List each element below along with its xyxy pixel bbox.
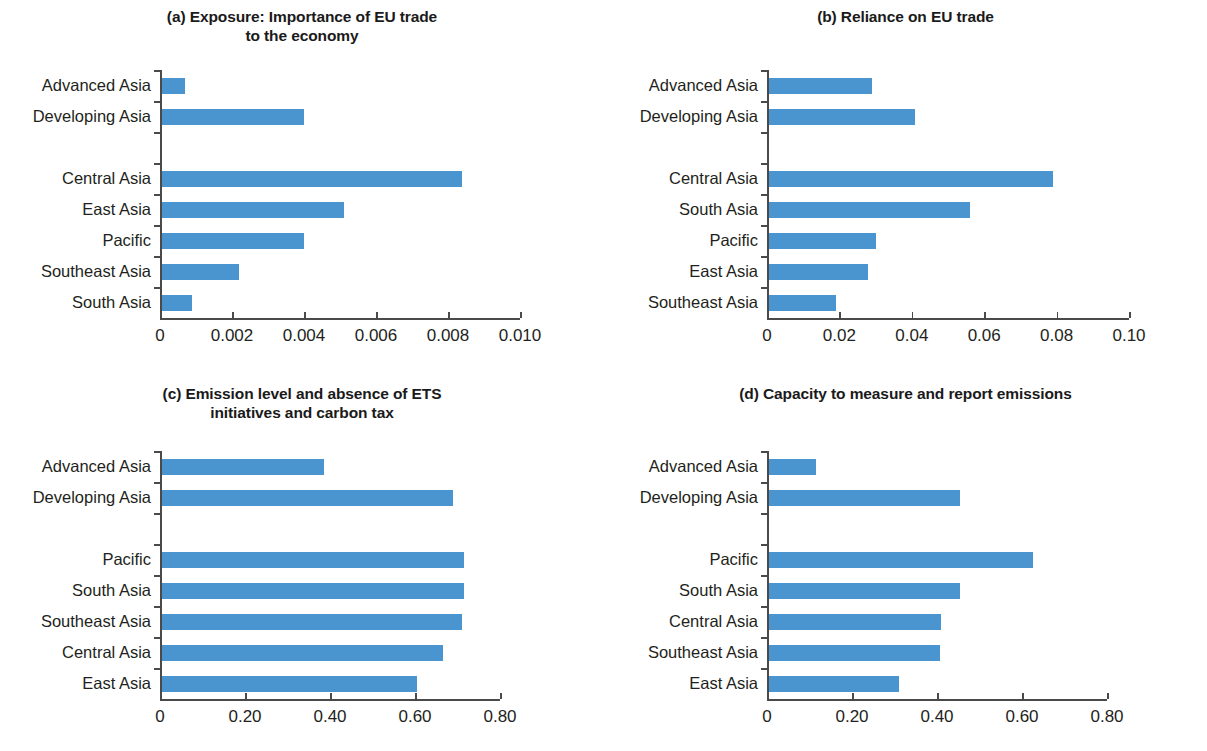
bar-row: South Asia: [604, 194, 1207, 225]
bar: [160, 109, 304, 125]
x-axis: 00.200.400.600.80: [767, 699, 1107, 727]
bar-track: [767, 225, 1129, 256]
x-tick: [937, 693, 939, 699]
category-label: Advanced Asia: [604, 458, 767, 475]
bar: [160, 645, 443, 661]
bar: [160, 233, 304, 249]
bar: [160, 459, 324, 475]
panel-a-title: (a) Exposure: Importance of EU trade to …: [0, 0, 604, 46]
category-label: East Asia: [604, 263, 767, 280]
category-label: Central Asia: [604, 613, 767, 630]
x-tick: [330, 693, 332, 699]
bar: [160, 490, 453, 506]
panel-b-title: (b) Reliance on EU trade: [604, 0, 1207, 26]
y-axis-spine: [767, 70, 769, 318]
panel-d-title: (d) Capacity to measure and report emiss…: [604, 371, 1207, 403]
x-tick-label: 0.10: [1112, 326, 1145, 346]
bar-row: Developing Asia: [604, 101, 1207, 132]
category-label: Pacific: [604, 551, 767, 568]
bar-track: [767, 256, 1129, 287]
x-tick-label: 0.60: [398, 707, 431, 727]
bar-track: [767, 70, 1129, 101]
panel-b: (b) Reliance on EU trade Advanced AsiaDe…: [604, 0, 1207, 371]
bar-row: Pacific: [604, 225, 1207, 256]
bar: [767, 552, 1033, 568]
x-tick: [984, 312, 986, 318]
x-tick: [1022, 693, 1024, 699]
x-tick-label: 0: [762, 326, 771, 346]
bar-row: Advanced Asia: [0, 451, 604, 482]
bar-track: [160, 482, 500, 513]
category-label: East Asia: [0, 675, 160, 692]
bar: [160, 202, 344, 218]
bar-row: Developing Asia: [604, 482, 1207, 513]
category-label: Central Asia: [0, 170, 160, 187]
category-label: Southeast Asia: [604, 644, 767, 661]
bar-row: Southeast Asia: [0, 256, 604, 287]
bar-rows: Advanced AsiaDeveloping AsiaPacificSouth…: [604, 451, 1207, 699]
bar-row: Southeast Asia: [604, 287, 1207, 318]
bar-track: [160, 544, 500, 575]
category-label: Central Asia: [604, 170, 767, 187]
bar-track: [160, 637, 500, 668]
bar-track: [767, 451, 1107, 482]
category-label: East Asia: [0, 201, 160, 218]
bar: [767, 614, 941, 630]
bar-row: Central Asia: [0, 163, 604, 194]
x-tick-label: 0.20: [835, 707, 868, 727]
bar-row: Developing Asia: [0, 101, 604, 132]
x-tick-label: 0.40: [920, 707, 953, 727]
bar-track: [160, 194, 520, 225]
panel-c-plot: Advanced AsiaDeveloping AsiaPacificSouth…: [0, 451, 604, 727]
bar-row: Southeast Asia: [0, 606, 604, 637]
x-tick-label: 0.010: [499, 326, 542, 346]
bar-rows: Advanced AsiaDeveloping AsiaPacificSouth…: [0, 451, 604, 699]
bar-row: South Asia: [0, 575, 604, 606]
bar: [767, 264, 868, 280]
x-axis: 00.200.400.600.80: [160, 699, 500, 727]
category-label: South Asia: [604, 582, 767, 599]
category-label: Developing Asia: [0, 108, 160, 125]
bar-row: East Asia: [0, 194, 604, 225]
x-tick: [520, 312, 522, 318]
bar-track: [160, 70, 520, 101]
bar-track: [767, 194, 1129, 225]
bar-row: Developing Asia: [0, 482, 604, 513]
bar-row: Advanced Asia: [604, 451, 1207, 482]
bar-track: [160, 451, 500, 482]
category-label: Developing Asia: [604, 489, 767, 506]
bar-row: Pacific: [0, 544, 604, 575]
x-tick: [1057, 312, 1059, 318]
x-tick-label: 0.08: [1040, 326, 1073, 346]
bar-row: East Asia: [604, 668, 1207, 699]
row-spacer: [0, 513, 604, 544]
bar-track: [767, 163, 1129, 194]
x-axis: 00.0020.0040.0060.0080.010: [160, 318, 520, 346]
category-label: Pacific: [0, 232, 160, 249]
bar: [160, 171, 462, 187]
bar-track: [160, 513, 500, 544]
bar-row: Advanced Asia: [0, 70, 604, 101]
x-tick: [245, 693, 247, 699]
y-axis-spine: [160, 70, 162, 318]
x-tick-label: 0: [155, 707, 164, 727]
x-tick-label: 0.04: [895, 326, 928, 346]
x-tick: [839, 312, 841, 318]
figure-grid: (a) Exposure: Importance of EU trade to …: [0, 0, 1207, 751]
bar: [160, 295, 192, 311]
bar-track: [767, 287, 1129, 318]
bar-row: Central Asia: [604, 606, 1207, 637]
bar-track: [160, 256, 520, 287]
bar-rows: Advanced AsiaDeveloping AsiaCentral Asia…: [604, 70, 1207, 318]
x-tick: [852, 693, 854, 699]
category-label: South Asia: [0, 294, 160, 311]
bar-track: [160, 575, 500, 606]
bar-track: [160, 225, 520, 256]
x-tick-label: 0.40: [313, 707, 346, 727]
panel-a-plot: Advanced AsiaDeveloping AsiaCentral Asia…: [0, 70, 604, 346]
bar-row: East Asia: [0, 668, 604, 699]
bar: [767, 583, 960, 599]
bar: [767, 645, 940, 661]
x-tick-label: 0.008: [427, 326, 470, 346]
category-label: Advanced Asia: [604, 77, 767, 94]
